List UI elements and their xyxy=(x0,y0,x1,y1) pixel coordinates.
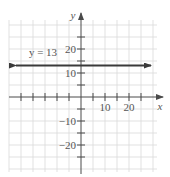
y-tick-label-10: 10 xyxy=(65,67,77,79)
coordinate-plane: 10 20 20 10 −10 −20 x y y = 13 xyxy=(0,0,170,177)
x-tick-label-20: 20 xyxy=(124,101,136,113)
y-axis-label: y xyxy=(70,9,76,21)
x-axis-label: x xyxy=(157,100,163,112)
line-label: y = 13 xyxy=(29,46,58,58)
x-tick-label-10: 10 xyxy=(100,101,112,113)
y-tick-label-20: 20 xyxy=(65,43,77,55)
y-tick-label-neg10: −10 xyxy=(59,115,77,127)
grid xyxy=(9,20,157,172)
y-tick-label-neg20: −20 xyxy=(59,139,77,151)
